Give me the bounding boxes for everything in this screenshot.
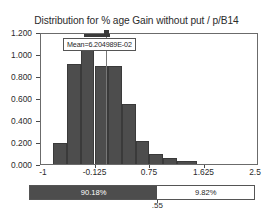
y-axis-tick-label: 0.800 <box>11 72 32 82</box>
y-axis-tick-label: 0.400 <box>11 116 32 126</box>
y-axis: 0.0000.2000.4000.6000.8001.0001.200 <box>0 28 36 170</box>
y-axis-tick-label: 1.200 <box>11 28 32 38</box>
histogram-bar <box>122 104 136 164</box>
x-axis-tick <box>149 165 150 168</box>
percent-boundary-label: .55 <box>152 201 163 210</box>
y-axis-tick-label: 0.200 <box>11 138 32 148</box>
percent-left-label: 90.18% <box>81 188 107 197</box>
histogram-bar <box>136 141 150 164</box>
histogram-bars <box>41 34 257 164</box>
y-axis-tick-label: 0.600 <box>11 94 32 104</box>
x-axis-tick-label: -1 <box>39 167 46 177</box>
mean-bracket <box>84 34 110 37</box>
x-axis-tick <box>95 165 96 168</box>
x-axis: -1-0.1250.751.6252.5 <box>0 167 273 181</box>
histogram-bar <box>81 40 95 164</box>
histogram-bar <box>108 66 122 164</box>
x-axis-tick-label: -0.125 <box>83 167 107 177</box>
mean-label-box: Mean=6.204989E-02 <box>63 38 136 51</box>
x-axis-tick-label: 1.625 <box>193 167 214 177</box>
distribution-chart-panel: Distribution for % age Gain without put … <box>0 0 273 216</box>
percent-right-label: 9.82% <box>195 188 217 197</box>
y-axis-tick <box>36 165 40 166</box>
x-axis-tick <box>204 165 205 168</box>
percent-left-segment[interactable]: 90.18% <box>30 186 157 199</box>
histogram-bar <box>149 154 163 164</box>
page-title: Distribution for % age Gain without put … <box>0 15 273 26</box>
histogram-bar <box>177 161 198 164</box>
mean-vertical-line <box>106 33 107 165</box>
histogram-bar <box>67 64 81 164</box>
percent-split-bar[interactable]: 90.18% 9.82% <box>29 185 255 200</box>
plot-area <box>40 33 258 165</box>
y-axis-tick-label: 1.000 <box>11 50 32 60</box>
percent-right-segment[interactable]: 9.82% <box>157 186 254 199</box>
x-axis-tick-label: 0.75 <box>141 167 157 177</box>
histogram-bar <box>53 143 67 164</box>
x-axis-tick-label: 2.5 <box>249 167 261 177</box>
histogram-bar <box>163 158 177 164</box>
